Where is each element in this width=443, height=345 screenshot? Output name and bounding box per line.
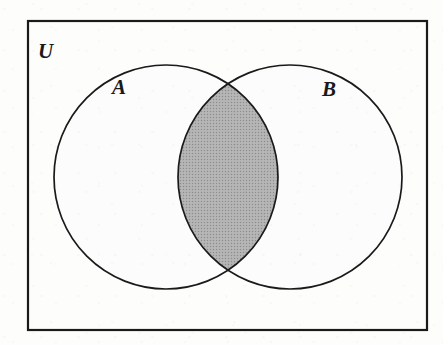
set-b-label: B — [321, 77, 336, 101]
universe-label: U — [38, 39, 55, 63]
set-a-label: A — [110, 75, 126, 99]
venn-diagram-canvas: U A B — [0, 0, 443, 345]
venn-diagram-figure: U A B — [0, 0, 443, 345]
